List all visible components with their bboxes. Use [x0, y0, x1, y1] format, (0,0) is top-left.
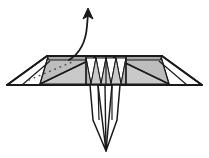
- fold-arrow-shaft: [69, 14, 88, 60]
- origami-diagram-canvas: [0, 0, 209, 158]
- center-pleat-group: [86, 57, 126, 85]
- fold-upward-arrow: [69, 8, 93, 60]
- lower-flaps-group: [90, 85, 120, 151]
- lower-flap-center-spine: [105, 85, 106, 151]
- origami-diagram-figure: Origami folding step diagram Wide flat f…: [0, 0, 209, 158]
- lower-flap-right: [106, 85, 120, 151]
